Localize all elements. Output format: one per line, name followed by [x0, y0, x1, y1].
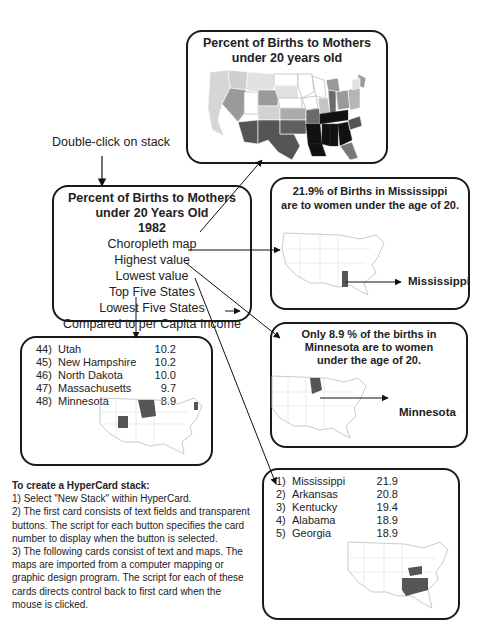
state-value: 19.4: [368, 501, 398, 514]
us-outline-map-icon: [346, 538, 454, 610]
instruction-label: Double-click on stack: [52, 135, 170, 149]
rank-number: 47): [36, 382, 52, 395]
state-name: New Hampshire: [58, 356, 136, 369]
main-menu-card: Percent of Births to Mothers under 20 Ye…: [52, 185, 252, 322]
top-five-card[interactable]: 1) Mississippi 21.9 2) Arkansas 20.8 3) …: [262, 468, 460, 620]
rank-number: 5): [276, 527, 286, 540]
state-name: Kentucky: [292, 501, 337, 514]
text-line: 21.9% of Births in Mississippi: [272, 184, 468, 198]
text-line: Minnesota are to women: [272, 341, 466, 354]
choropleth-card[interactable]: Percent of Births to Mothers under 20 ye…: [186, 30, 388, 164]
rank-number: 46): [36, 369, 52, 382]
hypercard-instructions: To create a HyperCard stack: 1) Select "…: [12, 479, 252, 611]
title-line: Percent of Births to Mothers: [188, 36, 386, 51]
state-name: Georgia: [292, 527, 331, 540]
option-lowest-value-button[interactable]: Lowest value: [54, 268, 250, 284]
title-line: under 20 years old: [188, 51, 386, 66]
rank-number: 2): [276, 488, 286, 501]
rank-number: 45): [36, 356, 52, 369]
highest-card-text: 21.9% of Births in Mississippi are to wo…: [272, 184, 468, 212]
state-name: North Dakota: [58, 369, 123, 382]
minnesota-callout: Minnesota: [399, 406, 456, 418]
option-highest-value-button[interactable]: Highest value: [54, 252, 250, 268]
choropleth-card-title: Percent of Births to Mothers under 20 ye…: [188, 36, 386, 66]
instruction-step-2: 2) The first card consists of text field…: [12, 505, 252, 545]
option-choropleth-map-button[interactable]: Choropleth map: [54, 236, 250, 252]
state-value: 18.9: [368, 514, 398, 527]
text-line: are to women under the age of 20.: [272, 198, 468, 212]
main-card-title: Percent of Births to Mothers under 20 Ye…: [54, 191, 250, 236]
mississippi-callout: Mississippi: [408, 275, 470, 287]
state-name: Mississippi: [292, 475, 345, 488]
rank-number: 3): [276, 501, 286, 514]
text-line: under the age of 20.: [272, 354, 466, 367]
lowest-card-text: Only 8.9 % of the births in Minnesota ar…: [272, 328, 466, 367]
rank-number: 44): [36, 343, 52, 356]
year-label: 1982: [54, 221, 250, 236]
us-outline-map-icon: [280, 229, 390, 299]
lowest-value-card[interactable]: Only 8.9 % of the births in Minnesota ar…: [270, 322, 468, 448]
highest-value-card[interactable]: 21.9% of Births in Mississippi are to wo…: [270, 177, 470, 310]
state-value: 10.2: [146, 356, 176, 369]
option-top-five-button[interactable]: Top Five States: [54, 284, 250, 300]
instructions-heading: To create a HyperCard stack:: [12, 479, 252, 492]
state-value: 10.2: [146, 343, 176, 356]
instruction-step-3: 3) The following cards consist of text a…: [12, 545, 252, 611]
state-value: 10.0: [146, 369, 176, 382]
state-value: 20.8: [368, 488, 398, 501]
state-name: Utah: [58, 343, 81, 356]
state-value: 21.9: [368, 475, 398, 488]
lowest-five-card[interactable]: 44) Utah 10.2 45) New Hampshire 10.2 46)…: [20, 336, 213, 466]
state-name: Arkansas: [292, 488, 338, 501]
text-line: Only 8.9 % of the births in: [272, 328, 466, 341]
us-outline-map-icon: [98, 394, 208, 456]
title-line: Percent of Births to Mothers: [54, 191, 250, 206]
title-line: under 20 Years Old: [54, 206, 250, 221]
instruction-step-1: 1) Select "New Stack" within HyperCard.: [12, 492, 252, 505]
us-outline-map-icon: [270, 372, 370, 442]
rank-number: 48): [36, 395, 52, 408]
state-name: Alabama: [292, 514, 335, 527]
rank-number: 4): [276, 514, 286, 527]
choropleth-us-map-icon: [208, 68, 368, 160]
top-five-list: 1) Mississippi 21.9 2) Arkansas 20.8 3) …: [276, 475, 416, 545]
rank-number: 1): [276, 475, 286, 488]
option-per-capita-income-button[interactable]: Compared to per Capita Income: [54, 316, 250, 332]
option-lowest-five-button[interactable]: Lowest Five States: [54, 300, 250, 316]
